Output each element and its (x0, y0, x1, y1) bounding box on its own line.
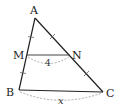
measure-mn: 4 (45, 58, 51, 68)
label-b: B (6, 86, 14, 99)
tick-mark-am (28, 37, 34, 38)
triangle-diagram: A M N B C 4 x (0, 0, 124, 107)
label-c: C (106, 87, 114, 100)
label-n: N (72, 49, 82, 62)
measure-bc: x (58, 95, 64, 106)
label-a: A (29, 4, 39, 17)
label-m: M (13, 49, 24, 62)
tick-mark-mb (20, 73, 26, 74)
segment-bc (19, 90, 103, 92)
